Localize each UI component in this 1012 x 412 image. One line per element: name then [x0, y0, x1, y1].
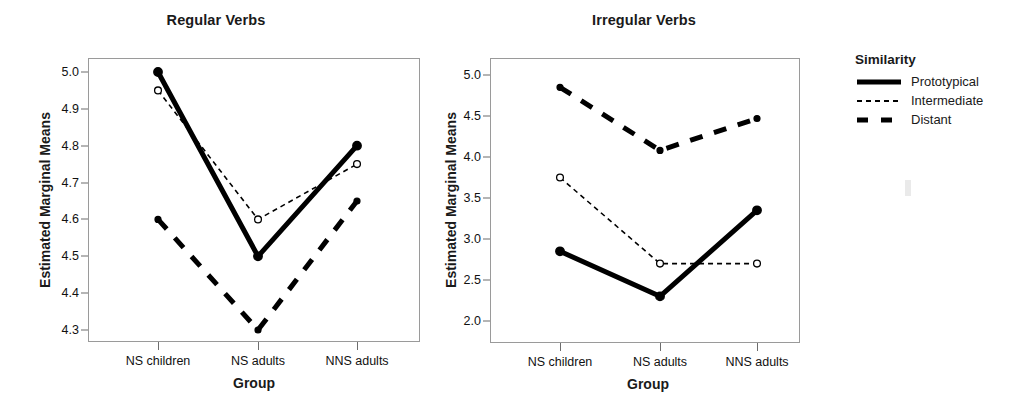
- legend-item-prototypical[interactable]: Prototypical: [855, 72, 1005, 91]
- x-tick-mark: [357, 342, 358, 350]
- y-tick-label: 4.3: [62, 323, 79, 337]
- scan-artifact: [905, 180, 911, 196]
- x-tick-label-nns-adults: NNS adults: [725, 355, 788, 369]
- data-point-prototypical-2: [753, 206, 761, 214]
- y-tick-label: 3.0: [464, 232, 481, 246]
- data-point-distant-2: [354, 198, 360, 204]
- y-tick-mark: [81, 293, 88, 294]
- y-tick-label: 4.5: [62, 249, 79, 263]
- y-tick-mark: [483, 321, 490, 322]
- chart-panel-regular-verbs: Regular Verbs 4.34.44.54.64.74.84.95.0 N…: [0, 0, 448, 412]
- series-canvas-regular-verbs: [88, 58, 420, 342]
- legend-key-intermediate-icon: [855, 94, 907, 108]
- y-tick-mark: [81, 219, 88, 220]
- x-axis-title-regular: Group: [233, 375, 275, 391]
- y-tick-mark: [483, 116, 490, 117]
- series-line-intermediate: [560, 178, 757, 264]
- y-tick-mark: [483, 280, 490, 281]
- y-tick-label: 3.5: [464, 191, 481, 205]
- y-tick-label: 2.5: [464, 273, 481, 287]
- x-tick-mark: [158, 342, 159, 350]
- y-axis-title-irregular: Estimated Marginal Means: [444, 112, 460, 288]
- series-line-intermediate: [158, 90, 357, 219]
- y-tick-mark: [483, 198, 490, 199]
- data-point-distant-0: [557, 84, 563, 90]
- legend-label-prototypical: Prototypical: [911, 74, 979, 89]
- x-axis-title-irregular: Group: [627, 376, 669, 392]
- y-tick-mark: [81, 182, 88, 183]
- figure-two-panel-line-charts: Regular Verbs 4.34.44.54.64.74.84.95.0 N…: [0, 0, 1012, 412]
- legend-similarity: Similarity Prototypical Intermediate Dis…: [855, 52, 1005, 129]
- series-canvas-irregular-verbs: [490, 58, 800, 343]
- y-tick-label: 5.0: [464, 68, 481, 82]
- x-tick-mark: [560, 343, 561, 351]
- y-tick-label: 4.4: [62, 286, 79, 300]
- y-tick-label: 4.8: [62, 139, 79, 153]
- chart-title-regular-verbs: Regular Verbs: [0, 12, 440, 28]
- data-point-prototypical-0: [154, 68, 162, 76]
- y-tick-mark: [483, 75, 490, 76]
- data-point-intermediate-0: [557, 174, 564, 181]
- chart-panel-irregular-verbs: Irregular Verbs 2.02.53.03.54.04.55.0 NS…: [436, 0, 832, 412]
- data-point-intermediate-1: [657, 260, 664, 267]
- y-tick-label: 4.0: [464, 150, 481, 164]
- y-tick-mark: [81, 256, 88, 257]
- legend-key-distant-icon: [855, 113, 907, 127]
- x-tick-label-ns-children: NS children: [126, 354, 191, 368]
- legend-item-distant[interactable]: Distant: [855, 110, 1005, 129]
- y-axis-title-regular: Estimated Marginal Means: [38, 112, 54, 288]
- data-point-distant-1: [657, 147, 663, 153]
- y-tick-mark: [483, 157, 490, 158]
- data-point-distant-1: [255, 327, 261, 333]
- data-point-intermediate-2: [754, 260, 761, 267]
- series-line-prototypical: [158, 72, 357, 256]
- chart-title-irregular-verbs: Irregular Verbs: [446, 12, 842, 28]
- x-tick-label-nns-adults: NNS adults: [325, 354, 388, 368]
- x-tick-mark: [757, 343, 758, 351]
- legend-label-intermediate: Intermediate: [911, 93, 983, 108]
- data-point-prototypical-1: [656, 292, 664, 300]
- y-tick-label: 4.9: [62, 102, 79, 116]
- x-tick-mark: [660, 343, 661, 351]
- series-line-distant: [560, 87, 757, 150]
- data-point-intermediate-2: [354, 161, 361, 168]
- x-tick-label-ns-children: NS children: [528, 355, 593, 369]
- data-point-distant-2: [754, 116, 760, 122]
- y-tick-label: 2.0: [464, 314, 481, 328]
- plot-area-irregular-verbs: [490, 58, 800, 343]
- y-tick-label: 4.5: [464, 109, 481, 123]
- y-tick-label: 4.6: [62, 212, 79, 226]
- legend-key-prototypical-icon: [855, 75, 907, 89]
- legend-item-intermediate[interactable]: Intermediate: [855, 91, 1005, 110]
- legend-label-distant: Distant: [911, 112, 951, 127]
- x-tick-label-ns-adults: NS adults: [633, 355, 687, 369]
- legend-title: Similarity: [855, 52, 1005, 67]
- data-point-prototypical-0: [556, 247, 564, 255]
- x-tick-mark: [258, 342, 259, 350]
- plot-area-regular-verbs: [88, 58, 420, 342]
- data-point-prototypical-1: [254, 252, 262, 260]
- data-point-intermediate-0: [155, 87, 162, 94]
- y-tick-mark: [81, 145, 88, 146]
- y-tick-label: 5.0: [62, 65, 79, 79]
- y-tick-mark: [81, 72, 88, 73]
- data-point-distant-0: [155, 216, 161, 222]
- data-point-intermediate-1: [255, 216, 262, 223]
- y-tick-mark: [483, 239, 490, 240]
- y-tick-mark: [81, 330, 88, 331]
- x-tick-label-ns-adults: NS adults: [231, 354, 285, 368]
- y-tick-label: 4.7: [62, 176, 79, 190]
- data-point-prototypical-2: [353, 142, 361, 150]
- y-tick-mark: [81, 108, 88, 109]
- series-line-prototypical: [560, 210, 757, 296]
